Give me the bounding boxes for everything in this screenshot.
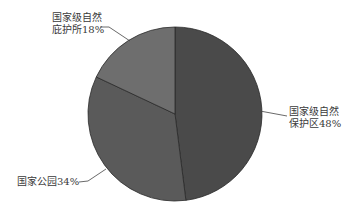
label-reserve: 国家级自然 保护区48%: [289, 106, 341, 130]
label-park: 国家公园34%: [17, 176, 79, 188]
label-sanctuary-line2: 庇护所18%: [52, 24, 104, 36]
label-park-line1: 国家公园34%: [17, 176, 79, 188]
slice-reserve: [175, 27, 262, 200]
leader-line-reserve: [260, 111, 287, 116]
leader-line-park: [79, 169, 106, 182]
label-reserve-line2: 保护区48%: [289, 118, 341, 130]
leader-line-sanctuary: [100, 27, 130, 41]
label-sanctuary-line1: 国家级自然: [52, 12, 104, 24]
pie-slices: [88, 27, 262, 201]
label-reserve-line1: 国家级自然: [289, 106, 341, 118]
label-sanctuary: 国家级自然 庇护所18%: [52, 12, 104, 36]
